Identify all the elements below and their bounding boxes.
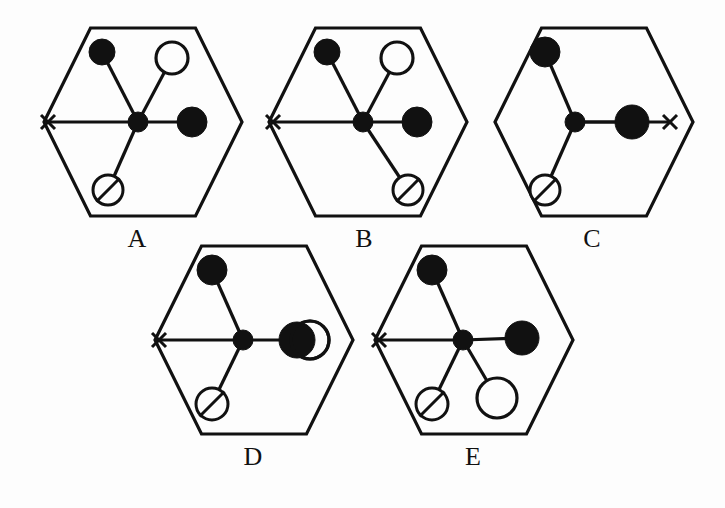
lower-left-slashed-circle	[530, 175, 560, 205]
panel-label-D: D	[244, 442, 263, 471]
right-open-circle-overlay	[291, 321, 329, 359]
hub-node-D	[233, 330, 253, 350]
right-filled-circle	[402, 107, 432, 137]
hub-node-E	[453, 330, 473, 350]
panel-E: E	[372, 246, 573, 471]
right-filled-circle	[615, 105, 649, 139]
panel-label-C: C	[583, 224, 600, 253]
hub-node-B	[353, 112, 373, 132]
panel-D: D	[152, 246, 353, 471]
panel-label-E: E	[465, 442, 481, 471]
right-filled-circle	[177, 107, 207, 137]
upper-left-filled-circle	[417, 255, 447, 285]
lower-left-slashed-circle	[196, 388, 228, 420]
figure-page: ABCDE	[0, 0, 725, 508]
hub-node-C	[565, 112, 585, 132]
upper-left-filled-circle	[530, 37, 560, 67]
upper-left-filled-circle	[314, 39, 340, 65]
lower-right-open-circle	[477, 378, 517, 418]
panel-label-B: B	[355, 224, 372, 253]
hub-node-A	[128, 112, 148, 132]
panel-B: B	[266, 28, 467, 253]
upper-left-filled-circle	[197, 255, 227, 285]
upper-left-filled-circle	[89, 39, 115, 65]
upper-right-open-circle	[381, 42, 413, 74]
lower-left-slashed-circle	[93, 175, 123, 205]
panel-C: C	[495, 28, 693, 253]
panel-label-A: A	[128, 224, 147, 253]
right-filled-circle	[505, 321, 539, 355]
answer-options-figure: ABCDE	[0, 0, 725, 508]
upper-right-open-circle	[156, 42, 188, 74]
lower-left-slashed-circle	[416, 388, 448, 420]
panel-A: A	[41, 28, 242, 253]
lower-right-slashed-circle	[393, 175, 423, 205]
